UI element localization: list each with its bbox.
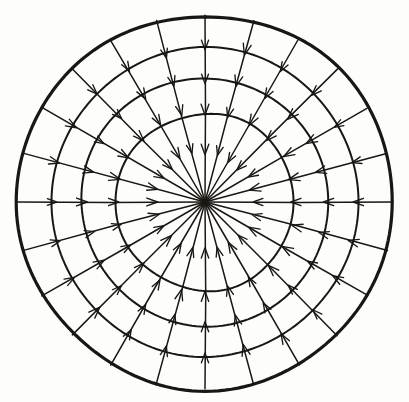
radial-spoke-90 [205,202,206,389]
center-convergence-point [202,199,208,205]
radial-spoke-315 [205,68,338,202]
inward-arrowhead-330-r3 [284,148,295,157]
inward-arrowhead-15-r4 [252,214,262,221]
inward-arrowhead-240-r4 [171,147,180,158]
inward-arrowhead-210-r4 [154,170,164,178]
figure-root: Radial Vector Field outer boundary circl… [0,0,409,402]
radial-spoke-15 [205,202,387,251]
inward-arrowhead-150-r4 [154,226,164,234]
inward-arrowhead-165-r4 [148,213,159,220]
radial-spoke-300 [205,39,298,202]
radial-spoke-345 [205,153,387,202]
inward-arrowhead-30-r3 [282,246,294,255]
inward-arrowhead-15-r1 [348,239,359,246]
radial-spoke-165 [23,202,205,251]
inward-arrowhead-15-r3 [292,224,303,232]
inward-arrowhead-30-r4 [248,227,260,236]
center-point-layer [202,199,208,205]
radial-vector-field-diagram [0,0,409,402]
